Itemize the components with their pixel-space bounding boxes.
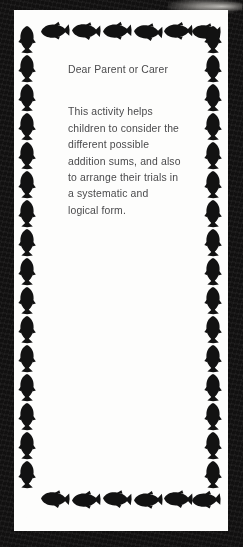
note-salutation: Dear Parent or Carer [68, 62, 194, 78]
parent-note-text: Dear Parent or Carer This activity helps… [68, 62, 194, 219]
note-body: This activity helps children to consider… [68, 104, 194, 219]
note-body-line: This activity helps [68, 104, 194, 120]
note-body-line: children to consider the [68, 121, 194, 137]
worksheet-page: Dear Parent or Carer This activity helps… [0, 0, 243, 547]
note-body-line: addition sums, and also [68, 154, 194, 170]
note-body-line: different possible [68, 137, 194, 153]
note-body-line: logical form. [68, 203, 194, 219]
note-body-line: a systematic and [68, 186, 194, 202]
note-body-line: to arrange their trials in [68, 170, 194, 186]
